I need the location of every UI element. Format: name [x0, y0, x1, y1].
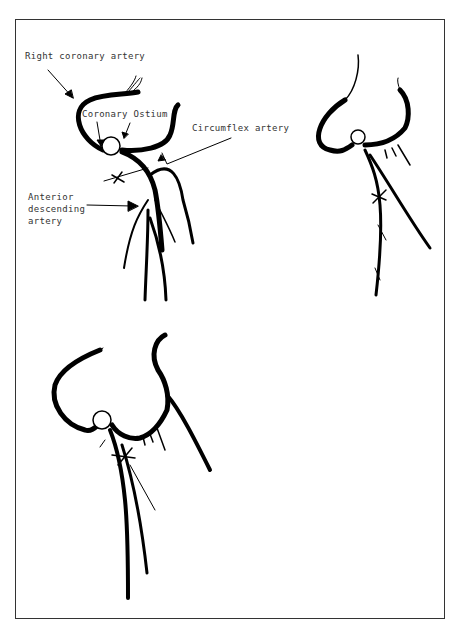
label-anterior-line2: descending [28, 204, 85, 215]
panel-top-left [48, 70, 231, 300]
label-circumflex-artery: Circumflex artery [192, 123, 289, 134]
label-right-coronary-artery: Right coronary artery [25, 51, 145, 62]
label-anterior-line1: Anterior [28, 192, 74, 203]
label-coronary-ostium: Coronary Ostium [82, 109, 168, 120]
coronary-diagram [0, 0, 460, 634]
panel-bottom [54, 335, 210, 598]
panel-top-right [318, 55, 430, 295]
label-anterior-line3: artery [28, 216, 62, 227]
